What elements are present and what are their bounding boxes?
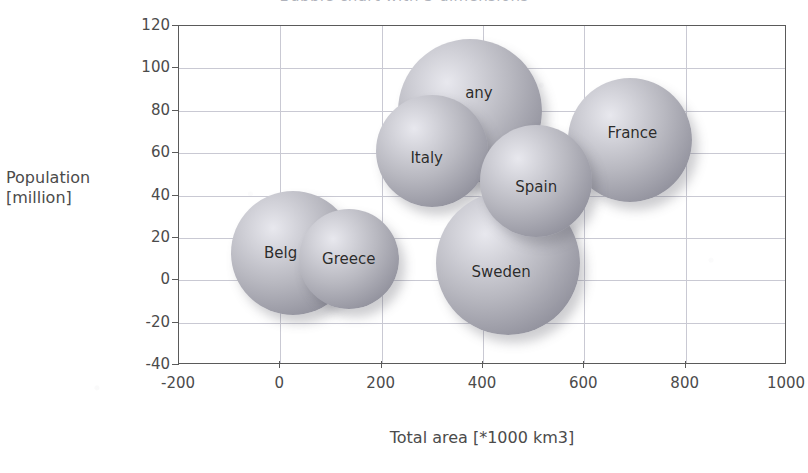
y-tick-label: 0 [160,272,170,287]
x-tick-label: 800 [670,376,699,391]
plot-area: BelgGreeceItalyanySwedenSpainFrance [178,25,786,364]
bubble-label: Greece [322,250,375,268]
bubble-greece[interactable]: Greece [299,209,399,309]
y-tick-label: -40 [146,357,171,372]
y-tick-mark [172,364,179,365]
bubble-chart-screenshot: Bubble chart with 3 dimensions Populatio… [0,0,808,473]
bubble-label: France [607,124,657,142]
bubble-label: Belg [264,244,297,262]
x-tick-label: 1000 [767,376,805,391]
x-tick-label: 200 [366,376,395,391]
y-tick-label: -20 [146,315,171,330]
y-axis-title: Population [million] [6,168,124,209]
y-tick-label: 60 [151,145,170,160]
x-tick-label: 600 [569,376,598,391]
bubble-spain[interactable]: Spain [480,125,592,237]
bubble-label: any [465,84,493,102]
x-axis-title: Total area [*1000 km3] [178,428,786,447]
bubble-label: Italy [410,149,443,167]
x-tick-label: 0 [275,376,285,391]
y-tick-label: 80 [151,103,170,118]
y-tick-label: 100 [141,60,170,75]
x-tick-label: -200 [161,376,195,391]
y-axis-title-line-1: Population [6,168,124,188]
y-tick-label: 20 [151,230,170,245]
bubble-label: Sweden [471,263,530,281]
x-tick-label: 400 [468,376,497,391]
gridline-vertical [686,26,687,363]
gridline-vertical [382,26,383,363]
y-tick-label: 40 [151,188,170,203]
x-axis-tick-labels: -20002004006008001000 [0,376,808,398]
bubble-label: Spain [515,178,557,196]
y-axis-title-line-2: [million] [6,188,124,208]
y-tick-label: 120 [141,18,170,33]
y-axis-tick-labels: -40-20020406080100120 [108,0,170,473]
bubble-italy[interactable]: Italy [376,95,488,207]
